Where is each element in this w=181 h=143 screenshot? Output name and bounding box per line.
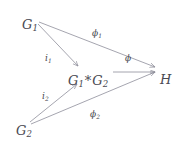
node-g1: G1 bbox=[22, 18, 38, 31]
arrow-i1 bbox=[38, 24, 78, 66]
edge-label-i1: i1 bbox=[45, 54, 52, 63]
edge-label-phi2: ϕ2 bbox=[90, 110, 100, 119]
node-h: H bbox=[160, 73, 171, 86]
edge-label-i2: i2 bbox=[42, 92, 49, 101]
edge-label-phi: ϕ bbox=[125, 54, 131, 63]
edge-label-phi1: ϕ1 bbox=[92, 29, 102, 38]
diagram-canvas: G1 G2 G1*G2 H i1 i2 ϕ1 ϕ2 ϕ bbox=[0, 0, 181, 143]
arrow-i2 bbox=[30, 84, 77, 122]
node-g2: G2 bbox=[16, 124, 32, 137]
node-free-product: G1*G2 bbox=[68, 74, 108, 87]
